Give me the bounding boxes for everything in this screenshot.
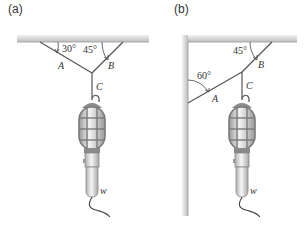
angle-b-A: 60° [197,70,211,81]
label-b-B: B [258,59,264,70]
label-a-C: C [96,81,103,92]
angle-a-A: 30° [62,43,76,54]
angle-arc-b-60 [188,80,208,91]
label-b-C: C [246,80,253,91]
angle-b-B: 45° [233,45,247,56]
label-b-A: A [211,93,219,104]
angle-arc-a-45 [102,42,107,59]
lamp-b [229,95,260,217]
ceiling-b [182,35,297,42]
ceiling-a [17,35,149,42]
label-a-B: B [108,60,114,71]
label-a-A: A [57,60,65,71]
lamp-a [79,95,110,217]
angle-arc-b-45 [250,42,256,59]
diagram: 30° 45° A B C w 45° 60° B A C w [0,0,308,229]
panel-a: 30° 45° A B C w [17,35,149,217]
angle-a-B: 45° [83,44,97,55]
panel-b: 45° 60° B A C w [182,35,297,217]
weight-b: w [250,185,257,196]
wall-b [182,35,188,216]
weight-a: w [100,185,107,196]
